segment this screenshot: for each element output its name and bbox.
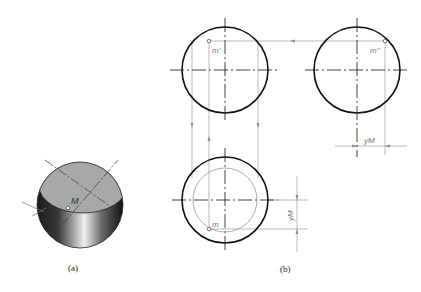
point-M-label: M	[71, 196, 79, 206]
drawing-canvas: M (a)	[0, 0, 421, 292]
point-m-double-prime	[383, 39, 387, 43]
point-m-label: m	[212, 220, 219, 229]
arrowheads	[191, 40, 391, 235]
dimension-yM-side: yM	[363, 136, 375, 145]
point-m	[207, 227, 211, 231]
top-view: m yM	[172, 148, 295, 253]
side-view: m'' yM	[305, 18, 410, 157]
point-M	[66, 206, 70, 210]
dimension-yM-top: yM	[286, 210, 295, 222]
cut-face	[39, 159, 127, 213]
projection-lines	[192, 41, 407, 252]
point-m-double-prime-label: m''	[370, 46, 380, 55]
point-m-prime	[207, 39, 211, 43]
caption-b: (b)	[280, 264, 291, 274]
front-view: m'	[170, 18, 280, 120]
panel-a-sphere: M (a)	[22, 159, 127, 273]
caption-a: (a)	[68, 263, 78, 273]
panel-b-projections: m' m'' yM m yM (b)	[170, 18, 410, 274]
point-m-prime-label: m'	[212, 46, 221, 55]
